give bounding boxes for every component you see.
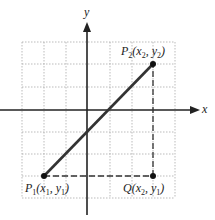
label-p1: P1(x1, y1) xyxy=(24,181,69,197)
y-axis-label: y xyxy=(83,5,90,19)
segment-p1-p2 xyxy=(44,64,153,176)
label-p2: P2(x2, y2) xyxy=(120,44,165,60)
point-p1-icon xyxy=(41,173,47,179)
x-axis-label: x xyxy=(201,102,208,116)
y-axis-arrow-icon xyxy=(83,22,91,32)
point-q-icon xyxy=(150,173,156,179)
point-p2-icon xyxy=(150,61,156,67)
label-q: Q(x2, y1) xyxy=(123,181,164,197)
coordinate-diagram: x y P2(x2, y2) P1(x1, y1) Q(x2, y1) xyxy=(0,0,215,220)
x-axis xyxy=(0,106,200,114)
y-axis xyxy=(83,22,91,215)
x-axis-arrow-icon xyxy=(190,106,200,114)
